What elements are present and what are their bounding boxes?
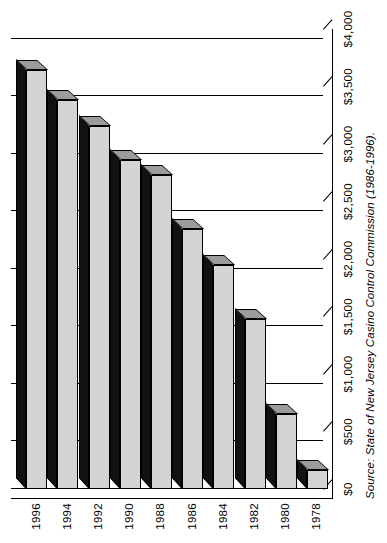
value-tick-label: $3,500: [342, 55, 354, 119]
category-label-1980: 1980: [279, 503, 291, 543]
bar-1990[interactable]: [120, 160, 141, 489]
bar-top-face: [235, 308, 245, 489]
category-label-1990: 1990: [123, 503, 135, 543]
bar-top-face: [266, 403, 276, 489]
value-tick-label: $2,000: [342, 227, 354, 291]
bar-top-face: [47, 89, 57, 489]
value-tick-label: $1,500: [342, 285, 354, 349]
bar-top-face: [110, 149, 120, 489]
bar-top-face: [172, 218, 182, 489]
value-tick-label: $4,000: [342, 0, 354, 61]
category-label-1986: 1986: [186, 503, 198, 543]
category-label-1992: 1992: [92, 503, 104, 543]
value-tick-label: $1,000: [342, 342, 354, 406]
category-label-1978: 1978: [310, 503, 322, 543]
category-label-1996: 1996: [30, 503, 42, 543]
bar-top-face: [203, 254, 213, 489]
bar-1996[interactable]: [26, 70, 47, 489]
bar-chart-figure: $0$500$1,000$1,500$2,000$2,500$3,000$3,5…: [0, 0, 387, 543]
bar-1988[interactable]: [151, 175, 172, 489]
bar-top-face: [141, 164, 151, 489]
category-label-1994: 1994: [61, 503, 73, 543]
category-label-1984: 1984: [217, 503, 229, 543]
bar-1994[interactable]: [57, 100, 78, 489]
chart-page: $0$500$1,000$1,500$2,000$2,500$3,000$3,5…: [0, 0, 387, 543]
source-note: Source: State of New Jersey Casino Contr…: [364, 132, 376, 499]
bar-1992[interactable]: [89, 126, 110, 489]
category-label-1988: 1988: [154, 503, 166, 543]
gridline-zero: [11, 498, 323, 499]
axis-floor: [332, 29, 333, 499]
value-tick-label: $2,500: [342, 170, 354, 234]
bar-1982[interactable]: [245, 319, 266, 489]
value-tick-label: $500: [342, 400, 354, 464]
bar-1984[interactable]: [213, 265, 234, 489]
category-label-1982: 1982: [248, 503, 260, 543]
bar-1980[interactable]: [276, 414, 297, 489]
bar-top-face: [16, 59, 26, 489]
value-tick-label: $3,000: [342, 112, 354, 176]
plot-area: [11, 29, 333, 499]
bar-1986[interactable]: [182, 229, 203, 489]
bar-1978[interactable]: [307, 470, 328, 489]
value-tick-label: $0: [342, 457, 354, 521]
bar-top-face: [79, 115, 89, 489]
gridline: [11, 38, 323, 39]
